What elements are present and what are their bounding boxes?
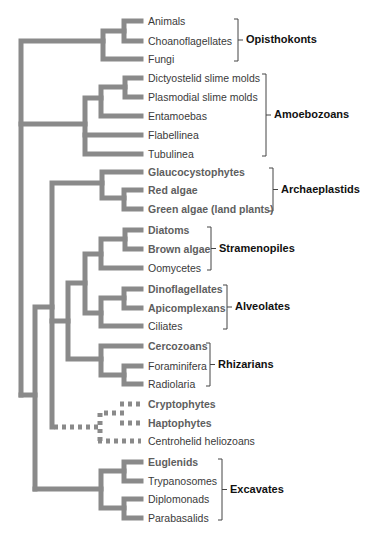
taxon-label: Tubulinea	[148, 148, 194, 160]
taxon-label: Ciliates	[148, 320, 182, 332]
taxon-label: Trypanosomes	[148, 475, 217, 487]
taxon-label: Radiolaria	[148, 378, 195, 390]
taxon-label: Flabellinea	[148, 129, 199, 141]
taxon-label: Dinoflagellates	[148, 283, 223, 295]
taxon-label: Haptophytes	[148, 417, 212, 429]
taxon-label: Foraminifera	[148, 360, 207, 372]
taxon-label: Centrohelid heliozoans	[148, 435, 255, 447]
taxon-label: Parabasalids	[148, 512, 209, 524]
group-bracket	[234, 19, 238, 61]
group-label: Excavates	[230, 483, 284, 495]
taxon-label: Apicomplexans	[148, 302, 226, 314]
taxon-label: Animals	[148, 15, 185, 27]
taxon-label: Red algae	[148, 184, 198, 196]
taxon-label: Euglenids	[148, 456, 198, 468]
taxon-label: Green algae (land plants)	[148, 203, 273, 215]
taxon-label: Oomycetes	[148, 262, 201, 274]
taxon-label: Diplomonads	[148, 493, 209, 505]
phylogenetic-tree-figure: AnimalsChoanoflagellatesFungiDictyosteli…	[0, 0, 374, 538]
taxon-label: Brown algae	[148, 243, 210, 255]
group-bracket	[262, 74, 266, 156]
group-label: Opisthokonts	[246, 33, 317, 45]
taxon-label: Glaucocystophytes	[148, 166, 245, 178]
taxon-label: Entamoebas	[148, 110, 207, 122]
taxon-label: Cercozoans	[148, 340, 208, 352]
taxon-label: Choanoflagellates	[148, 35, 232, 47]
taxon-label: Cryptophytes	[148, 398, 216, 410]
taxon-label: Diatoms	[148, 224, 189, 236]
group-label: Amoebozoans	[274, 108, 349, 120]
group-label: Rhizarians	[218, 358, 274, 370]
taxon-label: Dictyostelid slime molds	[148, 72, 260, 84]
group-label: Alveolates	[235, 300, 290, 312]
taxon-label: Fungi	[148, 53, 174, 65]
group-bracket	[218, 459, 222, 520]
taxon-label: Plasmodial slime molds	[148, 91, 258, 103]
group-label: Archaeplastids	[281, 183, 360, 195]
group-label: Stramenopiles	[219, 242, 295, 254]
